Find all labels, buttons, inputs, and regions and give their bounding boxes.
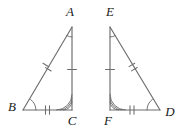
angle-arc-A [67,36,72,37]
angle-arc-E [110,36,115,37]
vertex-label-F: F [103,113,113,128]
vertex-label-E: E [105,4,114,19]
tick-AB-1 [43,63,49,66]
angle-arc-D [147,99,152,110]
vertex-label-A: A [65,4,74,19]
vertex-label-D: D [164,104,175,119]
geometry-figure: A B C [0,0,184,131]
angle-arc-B [31,100,36,111]
angle-arc-C-2 [60,98,72,110]
triangle-efd: E F D [103,4,175,128]
angle-arc-F-2 [110,98,122,110]
triangles-diagram: A B C [0,0,184,131]
triangle-abc: A B C [8,4,77,128]
vertex-label-C: C [68,113,77,128]
vertex-label-B: B [8,99,16,114]
